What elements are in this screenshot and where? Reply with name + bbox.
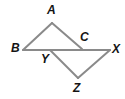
geometry-figure: A B C X Y Z — [0, 0, 125, 99]
vertex-label-c: C — [80, 31, 89, 43]
segment-y-z — [50, 50, 78, 78]
vertex-label-y: Y — [41, 53, 49, 65]
vertex-label-z: Z — [73, 82, 80, 94]
vertex-label-a: A — [47, 4, 56, 16]
segment-z-x — [78, 50, 110, 78]
segment-b-a — [23, 23, 52, 50]
segment-a-c — [52, 23, 82, 49]
vertex-label-x: X — [112, 43, 120, 55]
vertex-label-b: B — [11, 42, 20, 54]
